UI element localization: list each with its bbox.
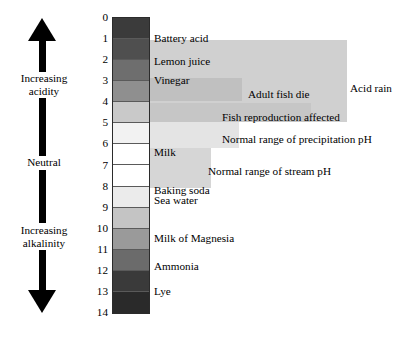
- acidity-alkalinity-arrow-group: Increasing acidity Neutral Increasing al…: [0, 0, 88, 337]
- ph-cell-13: [113, 292, 149, 313]
- ph-tick-6: 6: [86, 138, 108, 149]
- ph-tick-11: 11: [86, 244, 108, 255]
- ph-tick-1: 1: [86, 33, 108, 44]
- ph-cell-1: [113, 39, 149, 60]
- alkalinity-arrow-shaft-upper: [39, 170, 46, 223]
- ph-tick-5: 5: [86, 117, 108, 128]
- up-arrow-head-icon: [28, 18, 56, 41]
- ph-cell-4: [113, 102, 149, 123]
- ph-cell-8: [113, 187, 149, 208]
- increasing-acidity-label-line1: Increasing: [0, 72, 88, 85]
- ph-tick-4: 4: [86, 96, 108, 107]
- ph-cell-12: [113, 271, 149, 292]
- ph-cell-9: [113, 208, 149, 229]
- increasing-acidity-label-line2: acidity: [0, 85, 88, 98]
- substance-label-battery-acid: Battery acid: [154, 32, 208, 45]
- ph-tick-8: 8: [86, 181, 108, 192]
- ph-cell-10: [113, 229, 149, 250]
- down-arrow-head-icon: [28, 290, 56, 313]
- ph-color-column: [112, 17, 150, 314]
- ph-cell-7: [113, 166, 149, 187]
- substance-label-vinegar: Vinegar: [154, 74, 189, 87]
- ph-tick-14: 14: [86, 307, 108, 318]
- ph-cell-6: [113, 144, 149, 165]
- ph-cell-0: [113, 18, 149, 39]
- ph-tick-10: 10: [86, 223, 108, 234]
- increasing-alkalinity-label-line2: alkalinity: [0, 237, 88, 250]
- ph-tick-7: 7: [86, 160, 108, 171]
- band-label-normal-range-of-stream-ph: Normal range of stream pH: [208, 165, 331, 178]
- band-label-acid-rain: Acid rain: [350, 82, 392, 95]
- ph-tick-2: 2: [86, 54, 108, 65]
- substance-label-sea-water: Sea water: [154, 194, 198, 207]
- substance-label-ammonia: Ammonia: [154, 260, 199, 273]
- neutral-label: Neutral: [0, 156, 88, 169]
- ph-scale-diagram: Increasing acidity Neutral Increasing al…: [0, 0, 402, 337]
- increasing-alkalinity-label-line1: Increasing: [0, 224, 88, 237]
- down-arrow-shaft: [39, 250, 46, 290]
- substance-label-milk-of-magnesia: Milk of Magnesia: [154, 232, 234, 245]
- ph-cell-11: [113, 250, 149, 271]
- ph-cell-5: [113, 123, 149, 144]
- substance-label-milk: Milk: [154, 146, 176, 159]
- band-label-fish-reproduction-affected: Fish reproduction affected: [222, 111, 340, 124]
- ph-tick-12: 12: [86, 265, 108, 276]
- ph-tick-0: 0: [86, 12, 108, 23]
- up-arrow-shaft: [39, 41, 46, 75]
- substance-label-lemon-juice: Lemon juice: [154, 55, 210, 68]
- ph-cell-3: [113, 81, 149, 102]
- band-label-normal-range-of-precipitation-ph: Normal range of precipitation pH: [222, 133, 372, 146]
- ph-cell-2: [113, 60, 149, 81]
- ph-tick-13: 13: [86, 286, 108, 297]
- substance-label-lye: Lye: [154, 285, 171, 298]
- ph-tick-3: 3: [86, 75, 108, 86]
- acidity-arrow-shaft-lower: [39, 98, 46, 156]
- band-label-adult-fish-die: Adult fish die: [248, 88, 310, 101]
- ph-tick-9: 9: [86, 202, 108, 213]
